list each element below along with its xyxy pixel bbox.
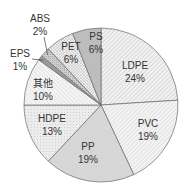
slice-label-value: 19%	[138, 131, 158, 142]
slice-label-value: 19%	[78, 154, 98, 165]
slice-label-value: 6%	[89, 44, 104, 55]
slice-label-name: ABS	[30, 13, 50, 24]
slice-label-name: 其他	[33, 77, 53, 89]
slice-label-value: 1%	[13, 61, 28, 72]
slice-label-value: 10%	[33, 91, 53, 102]
slice-label-value: 24%	[125, 73, 145, 84]
slice-label-value: 13%	[42, 126, 62, 137]
slice-label-value: 6%	[64, 54, 79, 65]
pie-chart: LDPE24%PVC19%PP19%HDPE13%其他10%EPS1%ABS2%…	[0, 0, 187, 196]
slice-label-name: LDPE	[122, 60, 148, 71]
slice-label-value: 2%	[33, 26, 48, 37]
slice-label-name: PP	[81, 141, 95, 152]
slice-label-name: PVC	[138, 118, 159, 129]
slice-label-name: HDPE	[38, 113, 66, 124]
slice-label-name: EPS	[10, 48, 30, 59]
slice-label-name: PET	[61, 41, 80, 52]
slice-label-name: PS	[89, 31, 103, 42]
